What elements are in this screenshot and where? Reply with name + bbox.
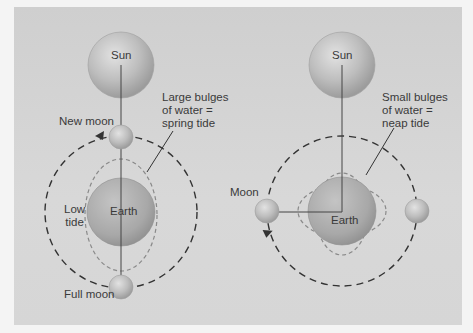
sun-label-left: Sun	[111, 49, 131, 62]
orbit-direction-arrow-icon	[261, 229, 272, 239]
earth-label-left: Earth	[110, 205, 138, 218]
earth-label-right: Earth	[331, 214, 359, 227]
annotation-leader-right	[366, 128, 394, 175]
tides-diagram	[0, 0, 473, 333]
sun-label-right: Sun	[332, 49, 352, 62]
low-tide-label: Low tide	[64, 203, 85, 229]
orbit-direction-arrow-icon	[95, 131, 104, 140]
full-moon-label: Full moon	[64, 288, 115, 301]
new-moon-label: New moon	[59, 115, 114, 128]
neap-tide-diagram	[255, 32, 429, 286]
moon-left-quarter	[255, 199, 279, 223]
spring-tide-diagram	[45, 32, 197, 299]
new-moon	[109, 125, 133, 149]
annotation-leader-left	[147, 131, 173, 172]
moon-right-quarter	[405, 199, 429, 223]
neap-tide-annotation: Small bulges of water = neap tide	[382, 91, 448, 130]
spring-tide-annotation: Large bulges of water = spring tide	[162, 91, 229, 130]
moon-label: Moon	[230, 186, 259, 199]
